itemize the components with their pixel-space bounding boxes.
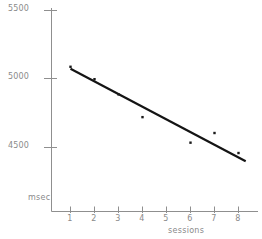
x-tick-label-8: 8: [232, 214, 244, 223]
x-tick-label-5: 5: [160, 214, 172, 223]
data-point: [69, 66, 71, 68]
x-tick-label-2: 2: [88, 214, 100, 223]
y-tick-label-5500: 5500: [8, 4, 29, 13]
y-tick-label-4500: 4500: [8, 141, 29, 150]
data-point: [213, 132, 215, 134]
y-tick-label-5000: 5000: [8, 72, 29, 81]
data-point: [189, 141, 191, 143]
x-tick-label-6: 6: [184, 214, 196, 223]
trend-line: [71, 69, 246, 161]
x-tick-label-7: 7: [208, 214, 220, 223]
data-point: [117, 93, 119, 95]
y-axis-title: msec: [28, 193, 50, 202]
chart-plot-area: [0, 0, 262, 239]
x-tick-label-4: 4: [136, 214, 148, 223]
x-tick-label-1: 1: [64, 214, 76, 223]
data-point-markers: [69, 66, 239, 155]
x-tick-label-3: 3: [112, 214, 124, 223]
data-point: [93, 78, 95, 80]
x-axis-title: sessions: [168, 226, 204, 235]
chart-figure: 5500 5000 4500 1 2 3 4 5 6 7 8 msec sess…: [0, 0, 262, 239]
data-point: [237, 152, 239, 154]
data-point: [141, 116, 143, 118]
